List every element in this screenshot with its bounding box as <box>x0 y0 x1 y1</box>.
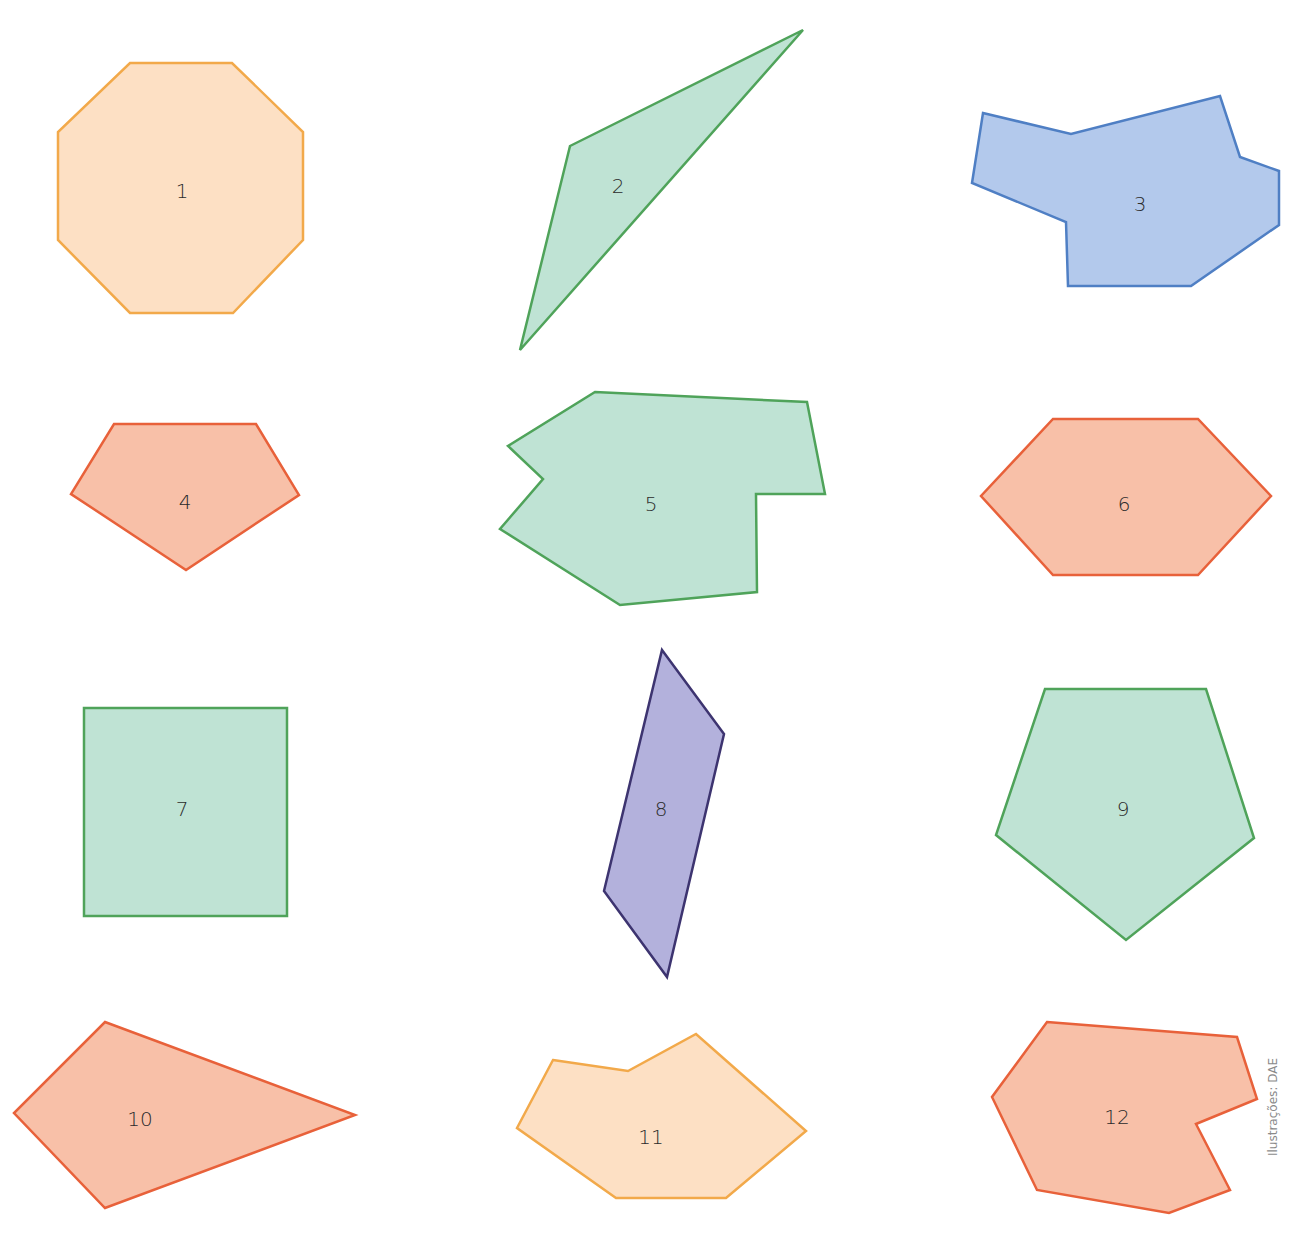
shape-label: 9 <box>1117 797 1130 821</box>
shape-label: 12 <box>1104 1105 1129 1129</box>
triangle-polygon <box>520 30 803 350</box>
nonagon-polygon <box>500 392 825 605</box>
polygon-figure: 1 2 3 4 5 6 7 8 9 10 11 12 <box>0 0 1311 1238</box>
shape-label: 7 <box>176 797 189 821</box>
shape-label: 8 <box>655 797 668 821</box>
shape-8: 8 <box>604 650 724 977</box>
decagon-polygon <box>972 96 1279 286</box>
shape-5: 5 <box>500 392 825 605</box>
shape-label: 1 <box>176 179 189 203</box>
kite-polygon <box>14 1022 355 1208</box>
shape-11: 11 <box>517 1034 806 1198</box>
shape-6: 6 <box>981 419 1271 575</box>
shape-label: 10 <box>127 1107 152 1131</box>
shape-3: 3 <box>972 96 1279 286</box>
shape-label: 6 <box>1118 492 1131 516</box>
shape-label: 2 <box>612 174 625 198</box>
shape-label: 11 <box>638 1125 663 1149</box>
shape-label: 4 <box>179 490 192 514</box>
shape-label: 5 <box>645 492 658 516</box>
heptagon-polygon <box>517 1034 806 1198</box>
shape-10: 10 <box>14 1022 355 1208</box>
shape-7: 7 <box>84 708 287 916</box>
shape-12: 12 <box>992 1022 1257 1213</box>
shape-label: 3 <box>1134 192 1147 216</box>
shape-9: 9 <box>996 689 1254 940</box>
shape-2: 2 <box>520 30 803 350</box>
shape-1: 1 <box>58 63 303 313</box>
illustration-credit: Ilustrações: DAE <box>1266 1036 1282 1156</box>
shape-4: 4 <box>71 424 299 570</box>
